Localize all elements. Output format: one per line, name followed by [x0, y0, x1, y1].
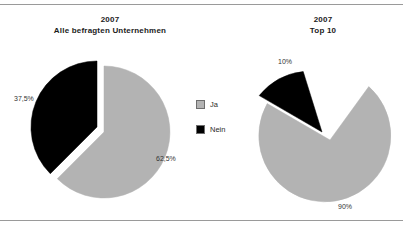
pie-chart-right: [258, 50, 393, 205]
pct-label-right-ja: 90%: [338, 203, 352, 210]
panel-left-subtitle: Alle befragten Unternehmen: [30, 25, 190, 36]
legend-swatch-nein: [196, 125, 205, 134]
panel-title-left: 2007 Alle befragten Unternehmen: [30, 14, 190, 36]
pct-label-left-ja: 62,5%: [156, 155, 176, 162]
pct-label-left-nein: 37,5%: [14, 95, 34, 102]
panel-left-year: 2007: [30, 14, 190, 25]
legend-swatch-ja: [196, 100, 205, 109]
legend-label-nein: Nein: [210, 125, 225, 134]
figure-container: 2007 Alle befragten Unternehmen 2007 Top…: [0, 0, 403, 232]
legend-item-nein[interactable]: Nein: [196, 125, 250, 134]
pie-chart-left: [14, 50, 184, 205]
panel-title-right: 2007 Top 10: [268, 14, 378, 36]
legend-label-ja: Ja: [210, 100, 218, 109]
legend: Ja Nein: [196, 100, 250, 150]
panel-right-year: 2007: [268, 14, 378, 25]
bottom-divider-rule: [0, 220, 403, 221]
top-divider-rule: [0, 4, 403, 5]
legend-item-ja[interactable]: Ja: [196, 100, 250, 109]
panel-right-subtitle: Top 10: [268, 25, 378, 36]
pct-label-right-nein: 10%: [278, 58, 292, 65]
